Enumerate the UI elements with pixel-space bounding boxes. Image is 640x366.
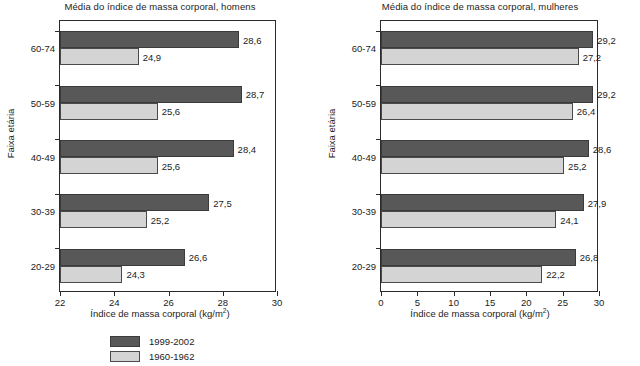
y-tick-mark xyxy=(55,139,60,140)
legend-swatch-icon xyxy=(110,351,140,362)
bar-value-label: 27,5 xyxy=(213,197,232,208)
plot-area-mulheres: 05101520253029,227,260-7429,226,450-5928… xyxy=(380,20,598,292)
legend-item[interactable]: 1999-2002 xyxy=(110,334,194,348)
y-tick-mark xyxy=(55,31,60,32)
legend-swatch-icon xyxy=(110,336,140,347)
bar-value-label: 29,2 xyxy=(597,34,616,45)
bar-value-label: 28,7 xyxy=(246,89,265,100)
y-tick-label-60-74: 60-74 xyxy=(31,43,55,54)
chart-panel-mulheres: Média do índice de massa corporal, mulhe… xyxy=(320,0,640,366)
x-tick-mark xyxy=(60,291,61,296)
bar-1960-1962 xyxy=(60,211,147,228)
y-tick-mark xyxy=(376,139,381,140)
y-tick-mark xyxy=(55,248,60,249)
chart-panel-homens: Média do índice de massa corporal, homen… xyxy=(0,0,320,366)
y-tick-label-40-49: 40-49 xyxy=(31,152,55,163)
bar-1999-2002 xyxy=(60,86,242,103)
x-tick-mark xyxy=(563,291,564,296)
y-axis-title-mulheres: Faixa etária xyxy=(326,104,337,164)
y-tick-label-30-39: 30-39 xyxy=(31,206,55,217)
bar-value-label: 28,6 xyxy=(593,143,612,154)
bar-value-label: 24,9 xyxy=(143,51,162,62)
bar-value-label: 24,1 xyxy=(560,214,579,225)
y-tick-label-60-74: 60-74 xyxy=(352,43,376,54)
bar-value-label: 24,3 xyxy=(126,269,145,280)
x-axis-title-close: ) xyxy=(226,308,229,319)
bar-value-label: 29,2 xyxy=(597,89,616,100)
x-tick-mark xyxy=(599,291,600,296)
bar-1999-2002 xyxy=(381,31,593,48)
legend-label: 1960-1962 xyxy=(149,351,194,362)
bar-value-label: 28,4 xyxy=(238,143,257,154)
bar-1999-2002 xyxy=(381,86,593,103)
x-tick-mark xyxy=(526,291,527,296)
x-tick-mark xyxy=(114,291,115,296)
y-tick-label-20-29: 20-29 xyxy=(31,260,55,271)
y-tick-mark xyxy=(376,248,381,249)
bar-1999-2002 xyxy=(381,249,576,266)
bar-value-label: 27,2 xyxy=(583,51,602,62)
y-tick-label-50-59: 50-59 xyxy=(31,97,55,108)
chart-title-homens: Média do índice de massa corporal, homen… xyxy=(0,1,320,12)
x-tick-mark xyxy=(454,291,455,296)
bar-1960-1962 xyxy=(381,266,542,283)
bar-value-label: 25,2 xyxy=(568,160,587,171)
x-axis-title-mulheres: Índice de massa corporal (kg/m2) xyxy=(320,307,640,319)
y-tick-mark xyxy=(55,85,60,86)
bar-1999-2002 xyxy=(60,31,239,48)
x-axis-title-text: Índice de massa corporal (kg/m xyxy=(90,308,223,319)
bar-1960-1962 xyxy=(381,48,579,65)
bar-1999-2002 xyxy=(60,249,185,266)
x-tick-mark xyxy=(223,291,224,296)
y-tick-mark xyxy=(376,85,381,86)
bar-1999-2002 xyxy=(381,140,589,157)
bar-value-label: 22,2 xyxy=(546,269,565,280)
x-axis-title-homens: Índice de massa corporal (kg/m2) xyxy=(0,307,320,319)
plot-area-homens: 222426283028,624,960-7428,725,650-5928,4… xyxy=(59,20,276,292)
legend-item[interactable]: 1960-1962 xyxy=(110,349,194,363)
y-tick-label-20-29: 20-29 xyxy=(352,260,376,271)
bar-1960-1962 xyxy=(60,103,158,120)
bar-value-label: 25,2 xyxy=(151,214,170,225)
bar-1999-2002 xyxy=(60,140,234,157)
bar-1960-1962 xyxy=(381,103,573,120)
x-axis-title-close: ) xyxy=(546,308,549,319)
bar-value-label: 26,4 xyxy=(577,106,596,117)
bar-1960-1962 xyxy=(60,48,139,65)
bar-value-label: 26,8 xyxy=(580,252,599,263)
x-tick-mark xyxy=(417,291,418,296)
bar-value-label: 27,9 xyxy=(588,197,607,208)
y-tick-label-30-39: 30-39 xyxy=(352,206,376,217)
legend-homens: 1999-20021960-1962 xyxy=(110,334,194,364)
y-tick-label-40-49: 40-49 xyxy=(352,152,376,163)
x-tick-mark xyxy=(169,291,170,296)
x-tick-mark xyxy=(277,291,278,296)
chart-title-mulheres: Média do índice de massa corporal, mulhe… xyxy=(320,1,640,12)
bar-1999-2002 xyxy=(381,194,584,211)
y-tick-mark xyxy=(55,194,60,195)
y-tick-mark xyxy=(376,31,381,32)
x-tick-mark xyxy=(381,291,382,296)
bar-value-label: 25,6 xyxy=(162,160,181,171)
bar-1960-1962 xyxy=(60,266,122,283)
bar-value-label: 25,6 xyxy=(162,106,181,117)
bar-1960-1962 xyxy=(381,211,556,228)
legend-label: 1999-2002 xyxy=(149,336,194,347)
bar-1960-1962 xyxy=(381,157,564,174)
x-axis-title-text: Índice de massa corporal (kg/m xyxy=(410,308,543,319)
y-axis-title-homens: Faixa etária xyxy=(5,104,16,164)
bmi-figure: Média do índice de massa corporal, homen… xyxy=(0,0,640,366)
y-tick-mark xyxy=(376,194,381,195)
bar-value-label: 28,6 xyxy=(243,34,262,45)
bar-value-label: 26,6 xyxy=(189,252,208,263)
y-tick-label-50-59: 50-59 xyxy=(352,97,376,108)
bar-1999-2002 xyxy=(60,194,209,211)
x-tick-mark xyxy=(490,291,491,296)
bar-1960-1962 xyxy=(60,157,158,174)
